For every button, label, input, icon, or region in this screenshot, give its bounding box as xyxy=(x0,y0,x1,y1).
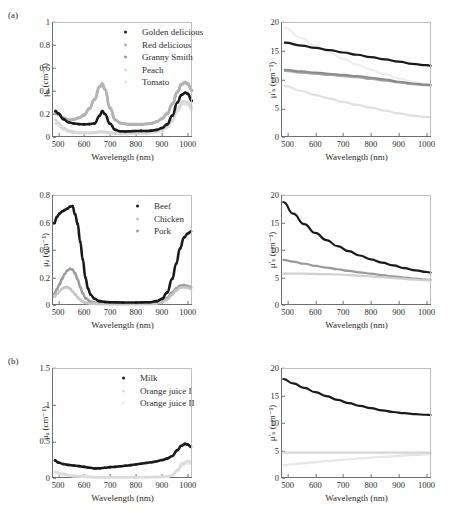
series-marker xyxy=(171,474,174,477)
legend-b: BeefChickenPork xyxy=(132,200,227,238)
series-marker xyxy=(104,476,107,479)
series-marker xyxy=(84,276,87,279)
series-marker xyxy=(63,209,66,212)
series-marker xyxy=(135,130,138,133)
legend-item: Beef xyxy=(132,200,227,213)
legend-label: Beef xyxy=(154,201,171,211)
y-axis-label: μ′ₛ (cm⁻¹) xyxy=(267,405,277,442)
series-marker xyxy=(62,126,65,129)
series-marker xyxy=(72,122,75,125)
y-tick-label: 20 xyxy=(271,18,280,27)
y-tick-label: 20 xyxy=(271,364,280,373)
x-tick-label: 900 xyxy=(392,308,405,317)
series-marker xyxy=(71,268,74,271)
legend-label: Chicken xyxy=(154,214,184,224)
series-canvas xyxy=(282,22,432,137)
x-tick-label: 600 xyxy=(309,308,322,317)
series-marker xyxy=(190,89,193,92)
series-marker xyxy=(166,457,169,460)
legend-marker-icon xyxy=(124,43,127,46)
series-line xyxy=(55,444,191,469)
series-marker xyxy=(83,475,86,478)
series-marker xyxy=(124,122,127,125)
series-marker xyxy=(119,122,122,125)
legend-item: Chicken xyxy=(132,213,227,226)
series-marker xyxy=(119,130,122,133)
legend-label: Golden delicious xyxy=(142,27,203,37)
series-marker xyxy=(83,123,86,126)
series-marker xyxy=(161,297,164,300)
series-marker xyxy=(171,293,174,296)
x-tick-label: 1000 xyxy=(418,140,435,149)
legend-marker-icon xyxy=(124,68,127,71)
series-marker xyxy=(74,213,77,216)
series-marker xyxy=(155,129,158,132)
series-marker xyxy=(63,273,66,276)
x-tick-label: 700 xyxy=(104,140,117,149)
y-axis-label: μₐ (cm⁻¹) xyxy=(40,406,50,440)
y-tick-label: 0 xyxy=(46,301,50,310)
legend-item: Red delicious xyxy=(120,39,225,52)
series-marker xyxy=(140,130,143,133)
x-tick-label: 800 xyxy=(365,140,378,149)
x-tick-label: 1000 xyxy=(179,140,196,149)
x-tick-label: 800 xyxy=(365,308,378,317)
series-marker xyxy=(89,302,92,305)
series-marker xyxy=(81,292,84,295)
series-marker xyxy=(58,283,61,286)
x-axis-label: Wavelength (nm) xyxy=(91,493,154,503)
series-marker xyxy=(67,121,70,124)
series-marker xyxy=(78,131,81,134)
series-marker xyxy=(74,272,77,275)
series-marker xyxy=(93,98,96,101)
series-marker xyxy=(54,459,57,462)
series-marker xyxy=(93,297,96,300)
series-marker xyxy=(171,102,174,105)
y-axis-label: μₐ (cm⁻¹) xyxy=(40,233,50,267)
series-line xyxy=(56,93,192,132)
series-marker xyxy=(166,123,169,126)
series-marker xyxy=(109,466,112,469)
series-marker xyxy=(54,110,57,113)
series-marker xyxy=(84,297,87,300)
y-tick-label: 5 xyxy=(275,446,279,455)
x-tick-label: 600 xyxy=(309,140,322,149)
series-marker xyxy=(180,444,183,447)
y-tick-label: 0.8 xyxy=(39,191,50,200)
series-marker xyxy=(88,131,91,134)
legend-marker-icon xyxy=(122,389,125,392)
y-tick-label: 0.8 xyxy=(39,41,50,50)
axes-a-right: 051015205006007008009001000Wavelength (n… xyxy=(281,22,431,137)
series-marker xyxy=(109,131,112,134)
series-marker xyxy=(83,466,86,469)
series-marker xyxy=(104,301,107,304)
y-tick-label: 20 xyxy=(271,191,280,200)
series-canvas xyxy=(282,195,432,305)
series-marker xyxy=(129,123,132,126)
legend-label: Milk xyxy=(140,373,158,383)
series-marker xyxy=(88,466,91,469)
legend-label: Tomato xyxy=(142,77,169,87)
series-marker xyxy=(81,300,84,303)
series-marker xyxy=(186,443,189,446)
series-marker xyxy=(186,93,189,96)
series-marker xyxy=(76,223,79,226)
legend-c: MilkOrange juice IOrange juice II xyxy=(118,372,228,410)
series-marker xyxy=(161,117,164,120)
series-marker xyxy=(190,99,193,102)
legend-item: Orange juice I xyxy=(118,385,228,398)
series-marker xyxy=(72,474,75,477)
series-marker xyxy=(104,113,107,116)
series-marker xyxy=(129,130,132,133)
series-marker xyxy=(145,462,148,465)
x-tick-label: 600 xyxy=(78,140,91,149)
series-marker xyxy=(171,455,174,458)
series-marker xyxy=(79,240,82,243)
series-marker xyxy=(57,112,60,115)
series-marker xyxy=(71,290,74,293)
series-marker xyxy=(176,469,179,472)
x-tick-label: 500 xyxy=(281,481,294,490)
series-marker xyxy=(54,118,57,121)
x-axis-label: Wavelength (nm) xyxy=(325,152,388,162)
series-marker xyxy=(135,463,138,466)
